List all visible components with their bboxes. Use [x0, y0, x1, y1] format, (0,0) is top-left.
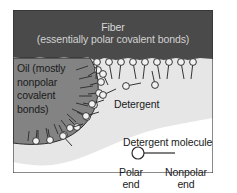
- detergent-head: [94, 59, 101, 66]
- detergent-head: [130, 59, 137, 66]
- legend-polar-head-icon: [132, 147, 144, 159]
- detergent-head: [33, 138, 40, 145]
- detergent-head: [67, 125, 74, 132]
- detergent-head: [100, 71, 107, 78]
- detergent-head: [89, 101, 96, 108]
- detergent-head: [47, 137, 54, 144]
- detergent-head: [178, 59, 185, 66]
- detergent-head: [100, 92, 107, 99]
- detergent-head: [152, 82, 159, 89]
- detergent-head: [190, 59, 197, 66]
- detergent-head: [106, 59, 113, 66]
- detergent-head: [60, 133, 67, 140]
- oil-label: Oil (mostly nonpolar covalent bonds): [17, 62, 89, 116]
- fiber-title: Fiber: [13, 22, 213, 33]
- legend-nonpolar-end-label: Nonpolar end: [159, 166, 213, 190]
- legend-title: Detergent molecule: [123, 137, 212, 148]
- detergent-micelle-diagram: Fiber (essentially polar covalent bonds)…: [0, 0, 237, 193]
- fiber-subtitle: (essentially polar covalent bonds): [13, 34, 213, 45]
- detergent-head: [142, 59, 149, 66]
- detergent-head: [166, 59, 173, 66]
- detergent-head: [123, 83, 130, 90]
- detergent-head: [98, 79, 105, 86]
- detergent-head: [118, 59, 125, 66]
- legend-polar-end-label: Polar end: [110, 166, 152, 190]
- detergent-head: [154, 59, 161, 66]
- detergent-label: Detergent: [114, 99, 159, 110]
